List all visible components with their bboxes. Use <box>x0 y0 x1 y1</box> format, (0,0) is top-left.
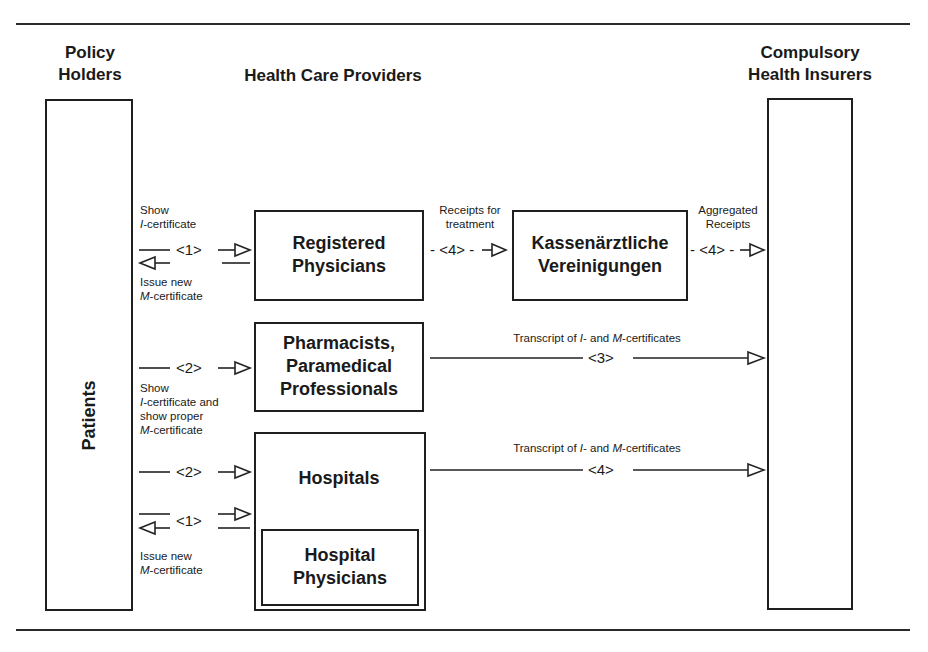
flow-number-2-hospitals: <2> <box>176 464 202 480</box>
flow-number-4-receipts: - <4> - <box>430 242 474 258</box>
label-line: Aggregated <box>690 203 766 217</box>
aggregated-receipts-label: Aggregated Receipts <box>690 203 766 231</box>
m-letter: M <box>140 424 150 436</box>
flow-number-1: <1> <box>176 242 202 258</box>
label-line: Issue new <box>140 549 203 563</box>
label-line: I-certificate and <box>140 395 219 409</box>
label-text: -certificate and <box>143 396 218 408</box>
label-text: Transcript of <box>513 442 580 454</box>
label-text: -certificate <box>150 290 203 302</box>
transcript-label-pharmacists: Transcript of I- and M-certificates <box>430 331 764 345</box>
label-text: - and <box>583 332 612 344</box>
label-line: M-certificate <box>140 289 203 303</box>
label-line: M-certificate <box>140 563 203 577</box>
flow-number-2-pharmacists: <2> <box>176 360 202 376</box>
transcript-label-hospitals: Transcript of I- and M-certificates <box>430 441 764 455</box>
label-line: Receipts for <box>428 203 512 217</box>
flow-number-1-hospital: <1> <box>176 513 202 529</box>
label-text: - and <box>583 442 612 454</box>
flow-number-4-aggregated: - <4> - <box>690 242 734 258</box>
label-line: Show <box>140 381 219 395</box>
label-text: -certificate <box>143 218 196 230</box>
label-text: -certificate <box>150 564 203 576</box>
show-certificates-label: Show I-certificate and show proper M-cer… <box>140 381 219 437</box>
label-line: Receipts <box>690 217 766 231</box>
m-letter: M <box>140 564 150 576</box>
issue-m-certificate-hospital-label: Issue new M-certificate <box>140 549 203 577</box>
m-letter: M <box>612 442 622 454</box>
label-line: M-certificate <box>140 423 219 437</box>
m-letter: M <box>140 290 150 302</box>
label-line: I-certificate <box>140 217 196 231</box>
label-text: -certificate <box>150 424 203 436</box>
label-text: -certificates <box>622 332 681 344</box>
label-line: treatment <box>428 217 512 231</box>
label-text: Transcript of <box>513 332 580 344</box>
m-letter: M <box>612 332 622 344</box>
flow-number-4-hospitals: <4> <box>588 462 614 478</box>
label-text: -certificates <box>622 442 681 454</box>
flow-number-3: <3> <box>588 350 614 366</box>
issue-m-certificate-label: Issue new M-certificate <box>140 275 203 303</box>
label-line: Issue new <box>140 275 203 289</box>
receipts-for-treatment-label: Receipts for treatment <box>428 203 512 231</box>
show-i-certificate-label: Show I-certificate <box>140 203 196 231</box>
label-line: show proper <box>140 409 219 423</box>
label-line: Show <box>140 203 196 217</box>
